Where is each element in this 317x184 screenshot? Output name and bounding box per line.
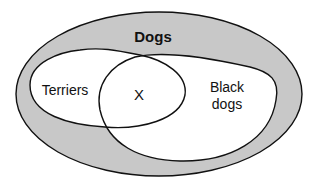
black-dogs-label-line2: dogs — [212, 96, 242, 112]
black-dogs-label-line1: Black — [210, 79, 245, 95]
dogs-label: Dogs — [134, 28, 172, 45]
intersection-label: X — [134, 86, 144, 103]
terriers-label: Terriers — [42, 82, 89, 98]
venn-diagram: Dogs Terriers X Black dogs — [0, 0, 317, 184]
